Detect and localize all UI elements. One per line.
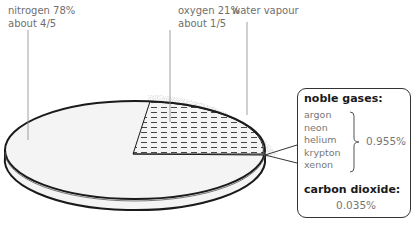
nitrogen-label: nitrogen 78% about 4/5 (8, 4, 75, 30)
noble-gas-argon: argon (304, 109, 341, 122)
noble-gases-value: 0.955% (366, 135, 406, 147)
noble-gas-krypton: krypton (304, 147, 341, 160)
oxygen-percent: oxygen 21% (178, 4, 240, 17)
water-vapour-label: water vapour (232, 4, 299, 17)
oxygen-slice (133, 102, 263, 155)
nitrogen-percent: nitrogen 78% (8, 4, 75, 17)
noble-gases-title: noble gases: (304, 92, 383, 105)
co2-title: carbon dioxide: (304, 183, 400, 196)
oxygen-fraction: about 1/5 (178, 17, 240, 30)
noble-gas-list: argon neon helium krypton xenon (304, 109, 341, 172)
nitrogen-fraction: about 4/5 (8, 17, 75, 30)
co2-value: 0.035% (336, 199, 376, 211)
noble-gas-xenon: xenon (304, 159, 341, 172)
brace-icon (348, 111, 362, 173)
noble-gas-helium: helium (304, 134, 341, 147)
trace-gases-callout: noble gases: argon neon helium krypton x… (297, 88, 411, 218)
noble-gas-neon: neon (304, 122, 341, 135)
oxygen-label: oxygen 21% about 1/5 (178, 4, 240, 30)
